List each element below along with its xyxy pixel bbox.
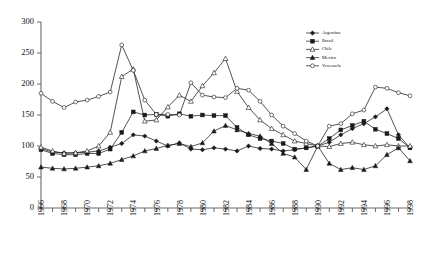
data-point bbox=[258, 99, 262, 103]
data-point bbox=[223, 123, 228, 127]
data-point bbox=[269, 126, 274, 130]
data-point bbox=[97, 152, 101, 156]
data-point bbox=[385, 86, 389, 90]
data-point bbox=[385, 142, 390, 146]
y-tick-label: 150 bbox=[21, 109, 34, 119]
y-axis-ticks: 050100150200250300 bbox=[21, 16, 41, 212]
data-point bbox=[281, 124, 285, 128]
data-point bbox=[143, 98, 147, 102]
chart-legend: ArgentinaBrazilChileMexicoVenezuela bbox=[306, 30, 341, 68]
legend-label: Brazil bbox=[322, 38, 334, 43]
data-point bbox=[304, 139, 308, 143]
data-point bbox=[385, 152, 390, 156]
data-point bbox=[39, 165, 44, 169]
data-point bbox=[212, 95, 216, 99]
x-tick-label: 1978 bbox=[176, 200, 185, 216]
y-tick-label: 200 bbox=[21, 78, 34, 88]
data-point bbox=[327, 137, 331, 141]
data-point bbox=[339, 133, 343, 137]
data-point bbox=[385, 107, 389, 111]
data-point bbox=[223, 147, 227, 151]
data-point bbox=[51, 99, 55, 103]
data-point bbox=[154, 139, 158, 143]
data-point bbox=[39, 91, 43, 95]
x-tick-label: 1968 bbox=[60, 200, 69, 216]
data-point bbox=[177, 93, 182, 97]
data-point bbox=[408, 94, 412, 98]
data-point bbox=[177, 113, 181, 117]
x-tick-label: 1996 bbox=[383, 200, 392, 216]
x-tick-label: 1972 bbox=[106, 200, 115, 216]
data-point bbox=[143, 134, 147, 138]
data-point bbox=[120, 43, 124, 47]
y-tick-label: 250 bbox=[21, 47, 34, 57]
data-point bbox=[258, 146, 262, 150]
data-point bbox=[223, 56, 228, 60]
data-series-group bbox=[39, 43, 413, 171]
data-point bbox=[200, 148, 204, 152]
x-tick-label: 1988 bbox=[291, 200, 300, 216]
legend-item-venezuela[interactable]: Venezuela bbox=[306, 63, 341, 68]
data-point bbox=[293, 147, 297, 151]
data-point bbox=[293, 132, 297, 136]
data-point bbox=[374, 85, 378, 89]
y-tick-label: 300 bbox=[21, 16, 34, 26]
series-line bbox=[41, 59, 410, 154]
x-tick-label: 1990 bbox=[314, 200, 323, 216]
data-point bbox=[189, 81, 193, 85]
data-point bbox=[201, 93, 205, 97]
data-point bbox=[311, 64, 315, 68]
data-point bbox=[131, 68, 135, 72]
y-tick-label: 50 bbox=[26, 171, 35, 181]
data-point bbox=[212, 114, 216, 118]
legend-label: Chile bbox=[322, 46, 332, 51]
data-point bbox=[350, 124, 354, 128]
data-point bbox=[310, 31, 314, 35]
x-tick-label: 1994 bbox=[360, 200, 369, 216]
legend-item-mexico[interactable]: Mexico bbox=[306, 55, 337, 60]
data-point bbox=[374, 127, 378, 131]
data-point bbox=[189, 114, 193, 118]
data-point bbox=[119, 74, 124, 78]
data-point bbox=[108, 130, 113, 134]
data-point bbox=[373, 115, 377, 119]
y-tick-label: 100 bbox=[21, 140, 34, 150]
data-point bbox=[311, 39, 315, 43]
data-point bbox=[269, 147, 273, 151]
x-tick-label: 1982 bbox=[222, 200, 231, 216]
data-point bbox=[350, 140, 355, 144]
legend-label: Venezuela bbox=[322, 63, 341, 68]
data-point bbox=[281, 142, 285, 146]
data-point bbox=[339, 122, 343, 126]
x-tick-label: 1970 bbox=[83, 200, 92, 216]
data-point bbox=[246, 144, 250, 148]
data-point bbox=[108, 147, 112, 151]
legend-item-brazil[interactable]: Brazil bbox=[306, 38, 334, 43]
legend-item-argentina[interactable]: Argentina bbox=[306, 30, 340, 35]
data-point bbox=[235, 149, 239, 153]
line-chart-figure: 050100150200250300 196619681970197219741… bbox=[0, 0, 439, 260]
x-tick-label: 1974 bbox=[129, 200, 138, 216]
x-tick-label: 1980 bbox=[199, 200, 208, 216]
legend-item-chile[interactable]: Chile bbox=[306, 46, 332, 51]
data-point bbox=[350, 112, 354, 116]
x-axis-group: 1966196819701972197419761978198019821984… bbox=[37, 200, 415, 216]
data-point bbox=[385, 132, 389, 136]
data-point bbox=[108, 90, 112, 94]
x-tick-label: 1984 bbox=[245, 200, 254, 216]
data-point bbox=[212, 129, 217, 133]
data-point bbox=[39, 145, 44, 149]
data-point bbox=[292, 139, 297, 143]
data-point bbox=[85, 98, 89, 102]
data-point bbox=[212, 146, 216, 150]
y-axis-group: 050100150200250300 bbox=[21, 16, 41, 212]
series-chile bbox=[39, 56, 413, 155]
data-point bbox=[235, 86, 239, 90]
data-point bbox=[304, 146, 308, 150]
data-point bbox=[350, 165, 355, 169]
data-point bbox=[224, 96, 228, 100]
data-point bbox=[270, 113, 274, 117]
data-point bbox=[316, 144, 320, 148]
data-point bbox=[362, 108, 366, 112]
data-point bbox=[397, 137, 401, 141]
